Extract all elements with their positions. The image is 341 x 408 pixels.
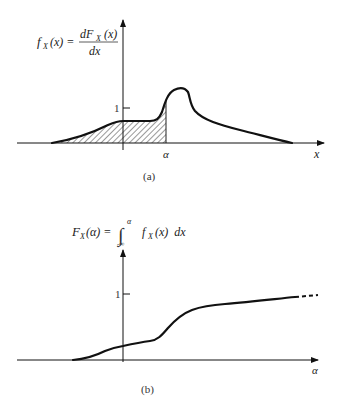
y-tick-label-1: 1 (114, 102, 120, 114)
formula-numerator-dF: dF (80, 27, 94, 41)
integrand-f: f (142, 225, 147, 239)
integrand-arg: (x) dx (155, 225, 186, 239)
integrand-sub: X (147, 232, 154, 241)
pdf-formula: f X (x) = dF X (x) dx (37, 27, 118, 58)
integral-lower-limit: -∞ (117, 240, 124, 248)
formula-numerator-arg: (x) (104, 27, 117, 41)
formula-f-sub: X (42, 42, 49, 51)
formula-F-sub: X (79, 232, 86, 241)
y-tick-label-1-b: 1 (115, 288, 121, 300)
panel-caption-a: (a) (143, 170, 156, 183)
figure-svg: f X (x) = dF X (x) dx 1 α x (a) F X (α) … (0, 0, 341, 408)
x-axis-label-b: α (312, 364, 318, 376)
formula-f-arg: (x) = (50, 35, 74, 49)
cdf-curve (73, 297, 295, 360)
panel-b: F X (α) = ∫ α -∞ f X (x) dx 1 α (b) (17, 217, 318, 396)
cdf-dashed-tail (295, 295, 318, 297)
formula-denominator: dx (89, 44, 101, 58)
x-axis-label: x (313, 147, 320, 161)
formula-F-arg: (α) = (86, 225, 111, 239)
panel-caption-b: (b) (141, 383, 154, 396)
integral-upper-limit: α (127, 217, 132, 226)
panel-a: f X (x) = dF X (x) dx 1 α x (a) (17, 20, 324, 183)
alpha-marker-label: α (163, 148, 169, 160)
figure-root: f X (x) = dF X (x) dx 1 α x (a) F X (α) … (0, 0, 341, 408)
cdf-formula: F X (α) = ∫ α -∞ f X (x) dx (71, 217, 186, 248)
